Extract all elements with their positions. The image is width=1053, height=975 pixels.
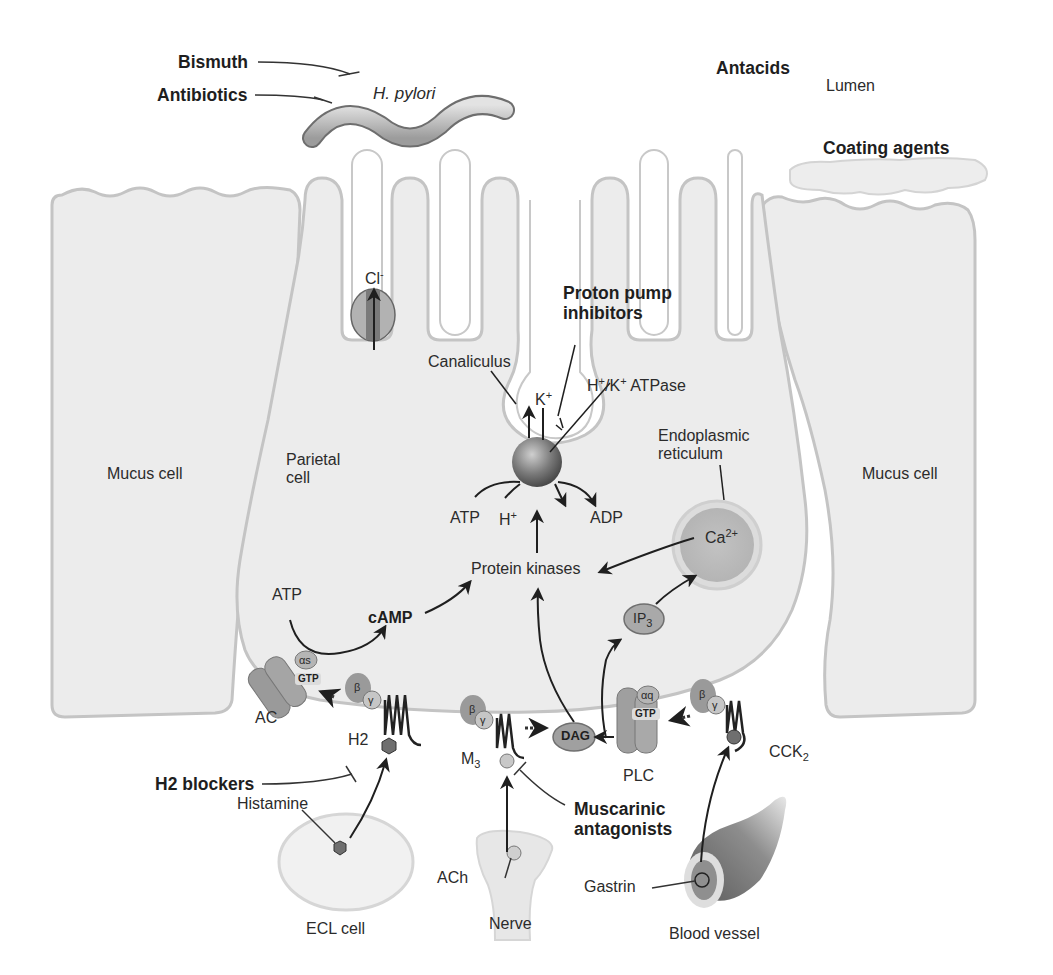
beta-m3-label: β xyxy=(469,703,475,716)
camp-label: cAMP xyxy=(368,609,412,627)
endoplasmic-reticulum-label: Endoplasmic reticulum xyxy=(658,427,750,464)
beta-h2-label: β xyxy=(354,681,360,694)
beta-cck-label: β xyxy=(699,688,705,701)
adp-label: ADP xyxy=(590,509,623,527)
ach-label: ACh xyxy=(437,869,468,887)
h2-receptor-label: H2 xyxy=(348,731,368,749)
h2-blockers-label: H2 blockers xyxy=(155,774,254,794)
mucus-cell-right-label: Mucus cell xyxy=(862,465,938,483)
alpha-s-label: αs xyxy=(299,654,311,667)
ach-bound xyxy=(500,754,514,768)
ac-label: AC xyxy=(255,709,277,727)
gamma-cck-label: γ xyxy=(712,699,718,712)
gastrin-label: Gastrin xyxy=(584,878,636,896)
protein-kinases-label: Protein kinases xyxy=(471,560,580,578)
calcium-ion-label: Ca2+ xyxy=(705,527,738,548)
parietal-cell-label: Parietal cell xyxy=(286,451,340,488)
h-pylori-label: H. pylori xyxy=(373,84,435,104)
antibiotics-label: Antibiotics xyxy=(157,85,247,105)
dag-label: DAG xyxy=(561,729,590,744)
canaliculus-label: Canaliculus xyxy=(428,353,511,371)
gastrin-bound xyxy=(727,730,741,744)
gamma-h2-label: γ xyxy=(368,694,374,707)
gtp-ac-label: GTP xyxy=(298,673,319,685)
plc-label: PLC xyxy=(623,767,654,785)
ip3-label: IP3 xyxy=(633,610,652,629)
histamine-bound xyxy=(382,738,396,754)
m3-receptor-label: M3 xyxy=(461,750,480,771)
proton-pump-inhibitors-label: Proton pump inhibitors xyxy=(563,283,672,323)
bismuth-label: Bismuth xyxy=(178,52,248,72)
histamine-label: Histamine xyxy=(237,795,308,813)
coating-agent-layer xyxy=(790,158,987,195)
m3-receptor xyxy=(497,714,524,758)
ecl-cell xyxy=(279,814,413,910)
atp-pump-label: ATP xyxy=(450,509,480,527)
blood-vessel-label: Blood vessel xyxy=(669,925,760,943)
atpase-label: H+/K+ ATPase xyxy=(587,375,686,396)
potassium-ion-label: K+ xyxy=(535,389,552,410)
atp-ac-label: ATP xyxy=(272,586,302,604)
mucus-cell-left-label: Mucus cell xyxy=(107,465,183,483)
hydrogen-ion-label: H+ xyxy=(499,509,517,530)
chloride-ion-label: Cl- xyxy=(365,268,384,289)
coating-agents-label: Coating agents xyxy=(823,138,949,158)
alpha-q-label: αq xyxy=(641,689,653,702)
cck2-receptor-label: CCK2 xyxy=(769,743,809,764)
antacids-label: Antacids xyxy=(716,58,790,78)
lumen-label: Lumen xyxy=(826,77,875,95)
proton-pump xyxy=(512,437,562,487)
gamma-m3-label: γ xyxy=(480,714,486,727)
nerve-label: Nerve xyxy=(489,915,532,933)
gtp-plc-label: GTP xyxy=(635,708,656,720)
muscarinic-antagonists-label: Muscarinic antagonists xyxy=(574,799,672,839)
ecl-cell-label: ECL cell xyxy=(306,920,365,938)
